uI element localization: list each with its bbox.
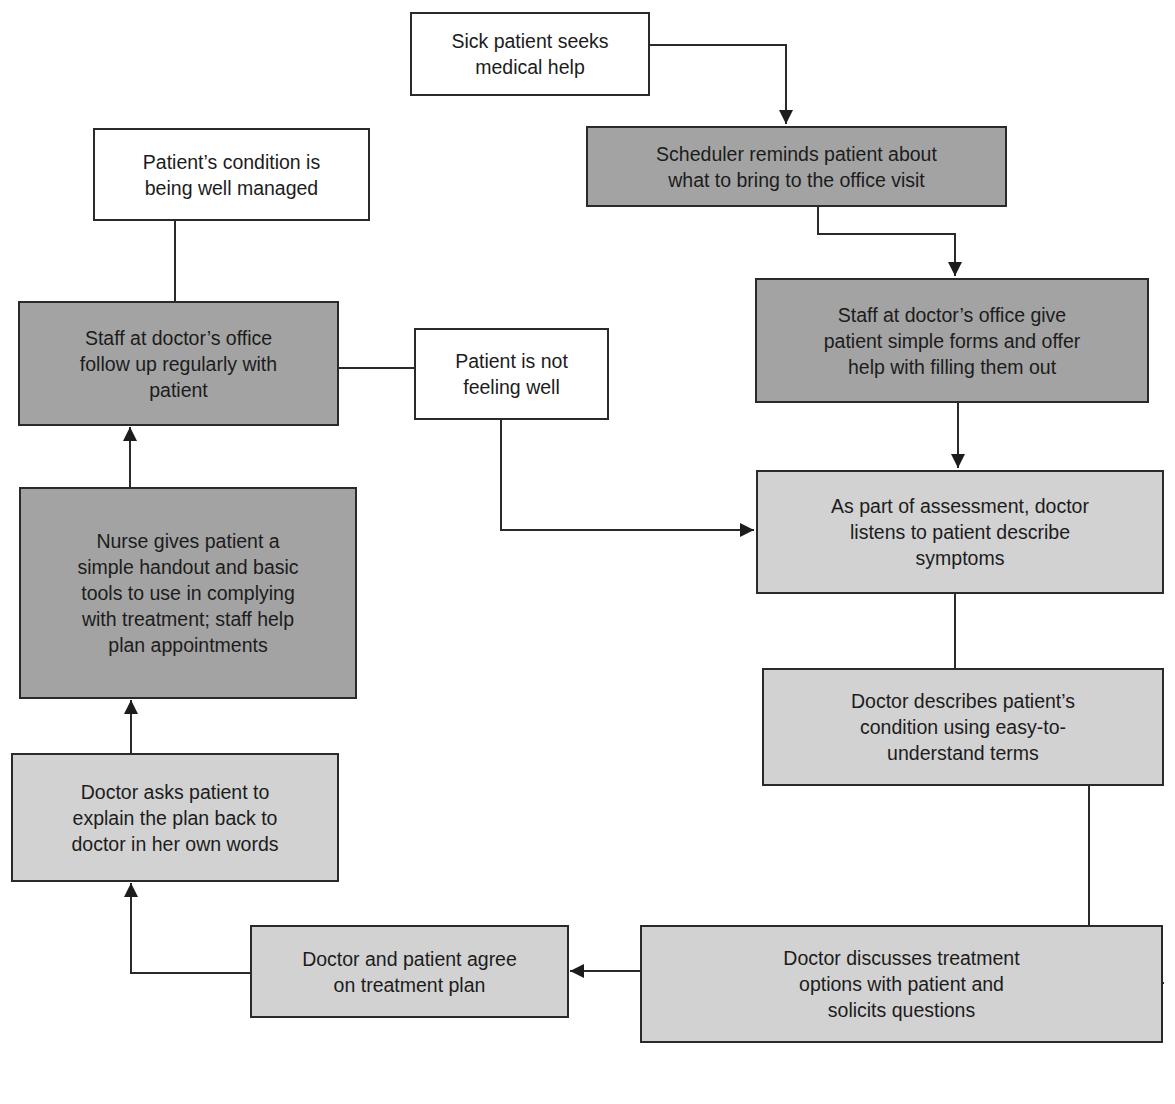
node-nurse-handout: Nurse gives patient a simple handout and… bbox=[19, 487, 357, 699]
node-staff-forms: Staff at doctor’s office give patient si… bbox=[755, 278, 1149, 403]
edge-scheduler-to-forms bbox=[818, 206, 955, 276]
node-label: Patient is not feeling well bbox=[455, 348, 568, 400]
node-label: Nurse gives patient a simple handout and… bbox=[77, 528, 298, 658]
node-label: Doctor asks patient to explain the plan … bbox=[71, 779, 278, 857]
edge-notwell-to-assessment bbox=[501, 419, 754, 530]
node-label: Staff at doctor’s office give patient si… bbox=[824, 302, 1081, 380]
node-label: Doctor and patient agree on treatment pl… bbox=[302, 946, 517, 998]
node-not-feeling-well: Patient is not feeling well bbox=[414, 328, 609, 420]
node-follow-up: Staff at doctor’s office follow up regul… bbox=[18, 301, 339, 426]
edge-agree-to-teachback bbox=[131, 883, 250, 973]
node-discusses-treatment: Doctor discusses treatment options with … bbox=[640, 925, 1163, 1043]
node-sick-patient: Sick patient seeks medical help bbox=[410, 12, 650, 96]
node-label: Staff at doctor’s office follow up regul… bbox=[80, 325, 277, 403]
node-agree-plan: Doctor and patient agree on treatment pl… bbox=[250, 925, 569, 1018]
node-label: Doctor describes patient’s condition usi… bbox=[851, 688, 1075, 766]
node-label: As part of assessment, doctor listens to… bbox=[831, 493, 1089, 571]
node-label: Sick patient seeks medical help bbox=[451, 28, 608, 80]
node-label: Patient’s condition is being well manage… bbox=[143, 149, 320, 201]
edge-sick-to-scheduler bbox=[649, 45, 786, 124]
node-label: Scheduler reminds patient about what to … bbox=[656, 141, 937, 193]
node-teach-back: Doctor asks patient to explain the plan … bbox=[11, 753, 339, 882]
node-label: Doctor discusses treatment options with … bbox=[783, 945, 1019, 1023]
node-well-managed: Patient’s condition is being well manage… bbox=[93, 128, 370, 221]
node-assessment: As part of assessment, doctor listens to… bbox=[756, 470, 1164, 594]
node-describes-condition: Doctor describes patient’s condition usi… bbox=[762, 668, 1164, 786]
node-scheduler-reminds: Scheduler reminds patient about what to … bbox=[586, 126, 1007, 207]
patient-care-flowchart: Sick patient seeks medical help Schedule… bbox=[0, 0, 1175, 1104]
